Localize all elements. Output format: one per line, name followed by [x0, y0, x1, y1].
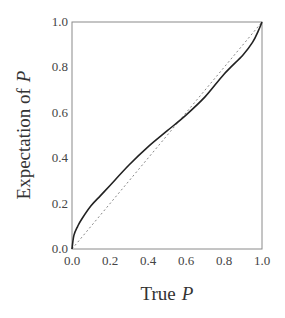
plot-frame	[72, 22, 262, 249]
x-axis-label: TrueP	[141, 283, 194, 304]
y-axis-label-text: Expectation of	[13, 87, 34, 199]
identity-line	[72, 22, 262, 249]
y-tick-label: 0.4	[52, 150, 69, 165]
x-tick-label: 1.0	[254, 253, 270, 268]
x-tick-label: 0.8	[216, 253, 232, 268]
x-tick-label: 0.2	[102, 253, 118, 268]
x-axis-label-text: True	[141, 283, 176, 304]
x-axis-ticks: 0.00.20.40.60.81.0	[64, 253, 270, 268]
y-tick-label: 1.0	[52, 14, 68, 29]
x-tick-label: 0.6	[178, 253, 195, 268]
x-axis-label-var: P	[181, 283, 194, 304]
y-tick-label: 0.2	[52, 196, 68, 211]
plot-area	[72, 22, 262, 249]
chart: 0.00.20.40.60.81.0 0.00.20.40.60.81.0 Tr…	[0, 0, 285, 318]
y-tick-label: 0.8	[52, 59, 68, 74]
expectation-curve	[72, 22, 262, 249]
y-axis-label: Expectation ofP	[13, 70, 34, 199]
x-tick-label: 0.4	[140, 253, 157, 268]
y-axis-label-var: P	[13, 70, 34, 83]
y-axis-ticks: 0.00.20.40.60.81.0	[52, 14, 69, 256]
y-tick-label: 0.6	[52, 105, 69, 120]
y-tick-label: 0.0	[52, 241, 68, 256]
